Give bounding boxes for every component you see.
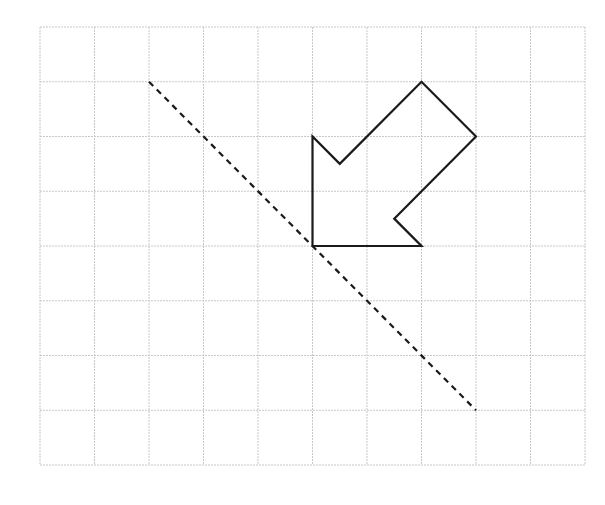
grid-diagram (0, 0, 605, 505)
arrow-shape (313, 82, 477, 246)
